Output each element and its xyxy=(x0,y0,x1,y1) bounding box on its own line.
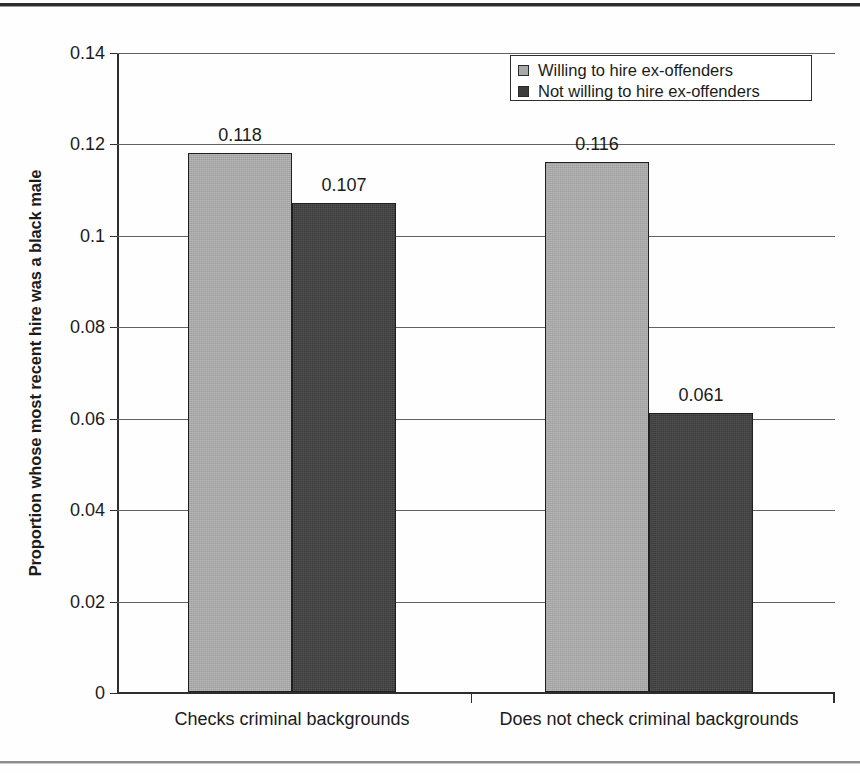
x-axis-line xyxy=(117,692,835,694)
bar[interactable] xyxy=(545,162,649,692)
legend-label-willing: Willing to hire ex-offenders xyxy=(538,62,733,79)
bar-value-label: 0.116 xyxy=(575,134,619,155)
bar-value-label: 0.061 xyxy=(678,385,723,406)
bar-value-label: 0.107 xyxy=(321,175,366,196)
y-axis-tick xyxy=(110,144,117,145)
y-axis-tick xyxy=(110,419,117,420)
gridline xyxy=(117,53,835,54)
bar[interactable] xyxy=(292,203,396,692)
chart-legend: Willing to hire ex-offenders Not willing… xyxy=(510,55,812,101)
y-tick-label: 0.02 xyxy=(70,591,105,612)
y-tick-label: 0.12 xyxy=(70,134,105,155)
y-axis-tick xyxy=(110,53,117,54)
y-tick-label: 0.14 xyxy=(70,43,105,64)
y-axis-tick xyxy=(110,510,117,511)
dark-gray-square-icon xyxy=(518,86,529,97)
y-axis-tick xyxy=(110,693,117,694)
bar[interactable] xyxy=(188,153,292,692)
legend-label-not-willing: Not willing to hire ex-offenders xyxy=(538,83,760,100)
y-tick-label: 0.08 xyxy=(70,317,105,338)
bar-value-label: 0.118 xyxy=(218,125,262,146)
bar[interactable] xyxy=(649,413,753,692)
legend-item-willing: Willing to hire ex-offenders xyxy=(518,60,805,80)
y-axis-tick xyxy=(110,602,117,603)
y-tick-label: 0.06 xyxy=(70,408,105,429)
y-axis-tick xyxy=(110,327,117,328)
legend-item-not-willing: Not willing to hire ex-offenders xyxy=(518,81,805,101)
plot-area: 0.140.120.10.080.060.040.020 0.1180.1070… xyxy=(117,53,835,693)
bar-chart-figure: Proportion whose most recent hire was a … xyxy=(0,0,860,773)
y-tick-label: 0.1 xyxy=(80,225,105,246)
y-axis-title: Proportion whose most recent hire was a … xyxy=(18,53,52,693)
page-rule-top xyxy=(0,3,860,6)
x-category-label: Checks criminal backgrounds xyxy=(174,709,409,730)
y-tick-label: 0 xyxy=(95,683,105,704)
page-rule-bottom xyxy=(0,761,860,763)
x-axis-end-tick xyxy=(833,694,835,703)
y-axis-line xyxy=(117,53,119,694)
y-axis-tick xyxy=(110,236,117,237)
x-axis-separator-tick xyxy=(471,694,472,703)
y-tick-label: 0.04 xyxy=(70,500,105,521)
x-category-label: Does not check criminal backgrounds xyxy=(499,709,798,730)
light-gray-square-icon xyxy=(518,65,529,76)
